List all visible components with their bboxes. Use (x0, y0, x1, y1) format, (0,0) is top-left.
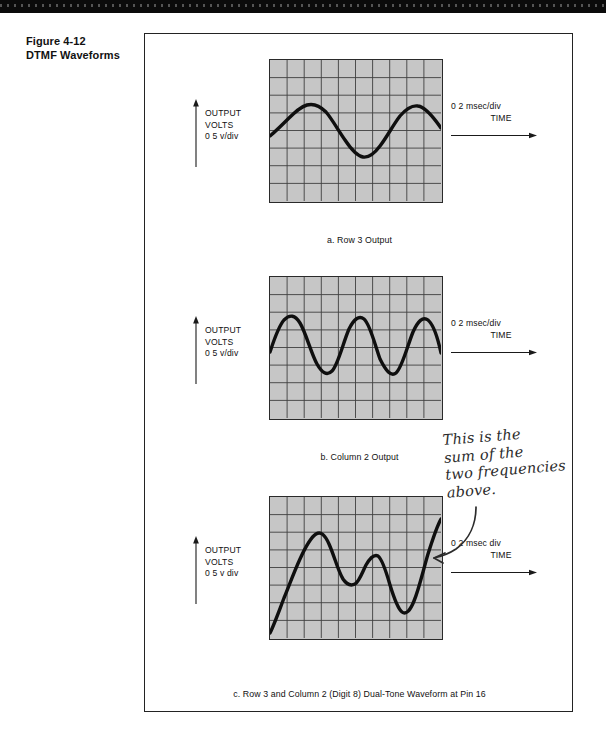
vertical-axis-annotation-c: OUTPUT VOLTS 0 5 v div (191, 536, 269, 606)
oscilloscope-screen-c (269, 496, 443, 640)
haxis-line-1: 0 2 msec/div (451, 318, 569, 330)
oscilloscope-screen-a (269, 59, 443, 203)
figure-label-block: Figure 4-12 DTMF Waveforms (26, 34, 136, 62)
panel-caption-a: a. Row 3 Output (145, 235, 574, 245)
horizontal-axis-annotation-b: 0 2 msec/div TIME (451, 318, 569, 361)
vaxis-line-1: OUTPUT (205, 325, 241, 337)
vaxis-line-1: OUTPUT (205, 108, 241, 120)
vaxis-line-2: VOLTS (205, 557, 241, 569)
panel-caption-c: c. Row 3 and Column 2 (Digit 8) Dual-Ton… (145, 689, 574, 699)
vertical-axis-annotation-a: OUTPUT VOLTS 0 5 v/div (191, 99, 269, 169)
horizontal-axis-annotation-a: 0 2 msec/div TIME (451, 101, 569, 144)
waveform-panel-c: OUTPUT VOLTS 0 5 v div (145, 496, 574, 711)
vertical-axis-annotation-b: OUTPUT VOLTS 0 5 v/div (191, 316, 269, 386)
figure-border-box: OUTPUT VOLTS 0 5 v/div (144, 33, 573, 712)
vaxis-line-1: OUTPUT (205, 545, 241, 557)
vertical-axis-label-a: OUTPUT VOLTS 0 5 v/div (205, 108, 241, 143)
up-arrow-icon (191, 536, 201, 604)
horizontal-axis-label-a: 0 2 msec/div TIME (451, 101, 569, 124)
haxis-line-1: 0 2 msec/div (451, 101, 569, 113)
waveform-panel-a: OUTPUT VOLTS 0 5 v/div (145, 59, 574, 274)
vaxis-line-3: 0 5 v div (205, 568, 241, 580)
haxis-line-2: TIME (451, 330, 569, 342)
figure-number: Figure 4-12 (26, 34, 136, 48)
vertical-axis-label-b: OUTPUT VOLTS 0 5 v/div (205, 325, 241, 360)
handwritten-annotation: This is the sum of the two frequencies a… (442, 421, 587, 502)
horizontal-axis-label-b: 0 2 msec/div TIME (451, 318, 569, 341)
vaxis-line-2: VOLTS (205, 337, 241, 349)
up-arrow-icon (191, 99, 201, 167)
right-arrow-icon (451, 131, 537, 140)
figure-title: DTMF Waveforms (26, 48, 136, 62)
right-arrow-icon (451, 348, 537, 357)
vaxis-line-2: VOLTS (205, 120, 241, 132)
scope-graticule-a (270, 60, 441, 201)
haxis-line-2: TIME (451, 113, 569, 125)
right-arrow-icon (451, 568, 537, 577)
vaxis-line-3: 0 5 v/div (205, 131, 241, 143)
oscilloscope-screen-b (269, 276, 443, 420)
vertical-axis-label-c: OUTPUT VOLTS 0 5 v div (205, 545, 241, 580)
vaxis-line-3: 0 5 v/div (205, 348, 241, 360)
handwritten-curved-arrow-icon (418, 505, 482, 565)
scope-graticule-c (270, 497, 441, 638)
up-arrow-icon (191, 316, 201, 384)
scope-graticule-b (270, 277, 441, 418)
scanner-artifact-bar (0, 0, 606, 13)
